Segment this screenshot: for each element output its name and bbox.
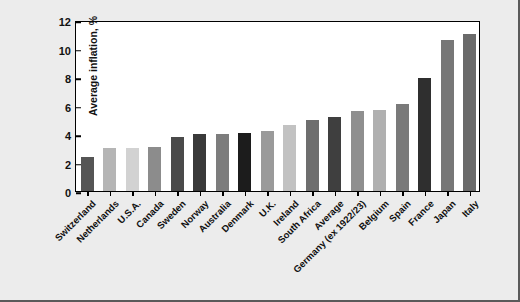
bar xyxy=(463,34,476,191)
bar xyxy=(216,134,229,191)
bar xyxy=(306,120,319,191)
y-axis-tick-mark xyxy=(76,107,81,109)
y-axis-tick: 4 xyxy=(65,130,76,142)
y-axis-tick-label: 0 xyxy=(65,187,71,199)
x-axis-tick-mark xyxy=(312,191,314,196)
x-axis-tick-mark xyxy=(447,191,449,196)
bar xyxy=(418,78,431,191)
x-axis-tick-mark xyxy=(110,191,112,196)
x-axis-tick-mark xyxy=(380,191,382,196)
bar xyxy=(261,131,274,191)
x-axis-tick-mark xyxy=(402,191,404,196)
x-axis-tick-mark xyxy=(267,191,269,196)
x-axis-tick-mark xyxy=(132,191,134,196)
y-axis-tick-mark xyxy=(76,21,81,23)
bar xyxy=(148,147,161,191)
bar xyxy=(126,148,139,191)
x-axis-tick-label: Italy xyxy=(459,198,480,219)
x-axis-tick-mark xyxy=(335,191,337,196)
bar xyxy=(81,157,94,191)
y-axis-tick-mark xyxy=(76,78,81,80)
y-axis-tick: 2 xyxy=(65,159,76,171)
bar xyxy=(193,134,206,191)
x-axis-tick-mark xyxy=(222,191,224,196)
x-axis-tick-mark xyxy=(470,191,472,196)
bar xyxy=(171,137,184,191)
figure-container: Average inflation, % 024681012 Switzerla… xyxy=(0,0,520,302)
y-axis-tick-label: 12 xyxy=(59,16,71,28)
bar xyxy=(441,40,454,191)
bar xyxy=(396,104,409,191)
plot-area: Average inflation, % 024681012 Switzerla… xyxy=(75,21,480,192)
y-axis-tick-mark xyxy=(76,50,81,52)
y-axis-tick-label: 2 xyxy=(65,159,71,171)
x-axis-tick-mark xyxy=(357,191,359,196)
bar xyxy=(103,148,116,191)
x-axis-tick-mark xyxy=(155,191,157,196)
y-axis-tick: 12 xyxy=(59,16,76,28)
y-axis-tick: 0 xyxy=(65,187,76,199)
y-axis-label: Average inflation, % xyxy=(87,0,99,141)
x-axis-tick-mark xyxy=(290,191,292,196)
bar xyxy=(238,133,251,191)
x-axis-tick-label: Japan xyxy=(431,198,458,225)
bar xyxy=(373,110,386,191)
x-axis-tick-mark xyxy=(200,191,202,196)
y-axis-tick-mark xyxy=(76,135,81,137)
x-axis-tick-mark xyxy=(245,191,247,196)
y-axis-tick: 6 xyxy=(65,102,76,114)
x-axis-tick-mark xyxy=(87,191,89,196)
x-axis-tick-mark xyxy=(425,191,427,196)
y-axis-tick: 10 xyxy=(59,45,76,57)
y-axis-tick-mark xyxy=(76,192,81,194)
y-axis-tick-label: 10 xyxy=(59,45,71,57)
y-axis-tick-label: 4 xyxy=(65,130,71,142)
bar xyxy=(351,111,364,191)
y-axis-tick-label: 8 xyxy=(65,73,71,85)
y-axis-tick-label: 6 xyxy=(65,102,71,114)
y-axis-tick: 8 xyxy=(65,73,76,85)
bar xyxy=(328,117,341,191)
x-axis-tick-mark xyxy=(177,191,179,196)
bar xyxy=(283,125,296,191)
